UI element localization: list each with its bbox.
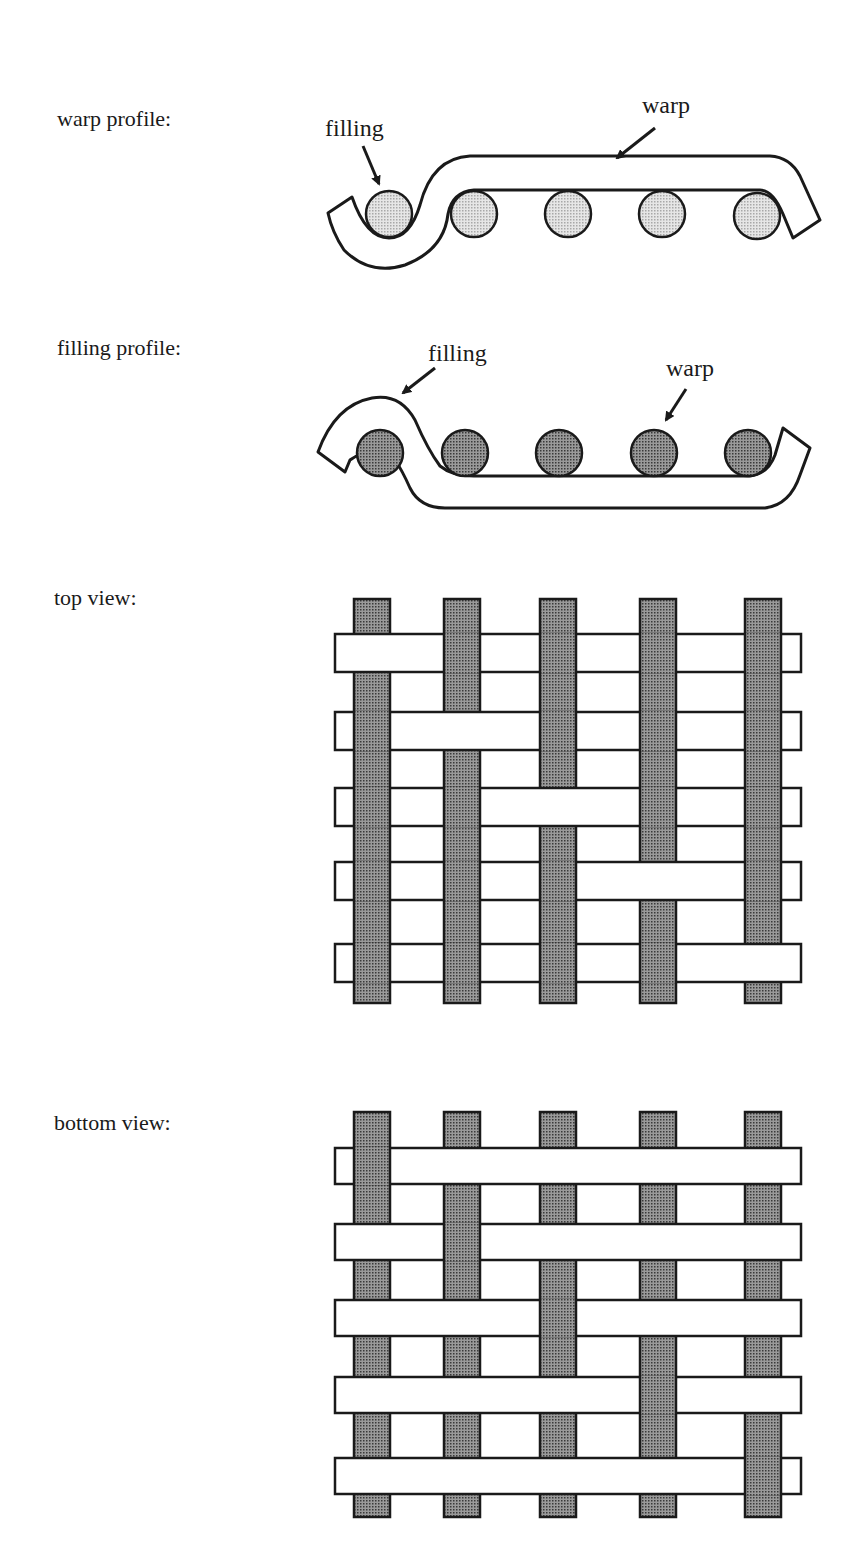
- filling-cross-section: [545, 191, 591, 237]
- arrow-icon: [363, 146, 379, 184]
- warp-cross-section: [725, 430, 771, 476]
- warp-float-segment: [354, 787, 390, 827]
- filling-cross-section: [451, 191, 497, 237]
- filling-profile-diagram: filling warp: [318, 340, 810, 508]
- warp-float-segment: [640, 711, 676, 751]
- warp-float-segment: [444, 1223, 480, 1261]
- warp-float-segment: [540, 861, 576, 901]
- warp-float-segment: [540, 1299, 576, 1337]
- warp-profile-diagram: filling warp: [325, 92, 820, 268]
- filling-profile-warp-annotation: warp: [666, 355, 714, 381]
- warp-float-segment: [640, 943, 676, 983]
- arrow-icon: [617, 128, 655, 158]
- warp-float-segment: [354, 711, 390, 751]
- warp-float-segment: [354, 1147, 390, 1185]
- filling-cross-section: [639, 191, 685, 237]
- warp-float-segment: [354, 943, 390, 983]
- warp-float-segment: [444, 633, 480, 673]
- warp-cross-section: [631, 430, 677, 476]
- warp-float-segment: [444, 943, 480, 983]
- warp-float-segment: [745, 861, 781, 901]
- warp-float-segment: [540, 943, 576, 983]
- warp-profile-filling-annotation: filling: [325, 115, 384, 141]
- filling-yarn: [335, 788, 801, 826]
- bottom-view-diagram: [335, 1112, 801, 1517]
- warp-cross-section: [357, 430, 403, 476]
- filling-cross-section: [366, 191, 412, 237]
- warp-float-segment: [640, 787, 676, 827]
- warp-float-segment: [640, 633, 676, 673]
- warp-float-segment: [540, 711, 576, 751]
- warp-float-segment: [354, 861, 390, 901]
- filling-yarn: [335, 1224, 801, 1260]
- warp-float-segment: [745, 787, 781, 827]
- filling-cross-section: [734, 193, 780, 239]
- warp-float-segment: [540, 633, 576, 673]
- warp-float-segment: [745, 1457, 781, 1495]
- arrow-icon: [666, 389, 686, 420]
- warp-float-segment: [444, 861, 480, 901]
- arrow-icon: [403, 368, 435, 393]
- warp-float-segment: [640, 1376, 676, 1414]
- filling-yarn: [335, 1148, 801, 1184]
- filling-yarn: [335, 1377, 801, 1413]
- warp-cross-section: [442, 430, 488, 476]
- top-view-diagram: [335, 599, 801, 1003]
- warp-float-segment: [444, 787, 480, 827]
- filling-yarn: [335, 1458, 801, 1494]
- weave-diagram: filling warp filling warp: [0, 0, 858, 1558]
- warp-cross-section: [536, 430, 582, 476]
- warp-float-segment: [745, 633, 781, 673]
- filling-profile-filling-annotation: filling: [428, 340, 487, 366]
- warp-profile-warp-annotation: warp: [642, 92, 690, 118]
- warp-float-segment: [745, 711, 781, 751]
